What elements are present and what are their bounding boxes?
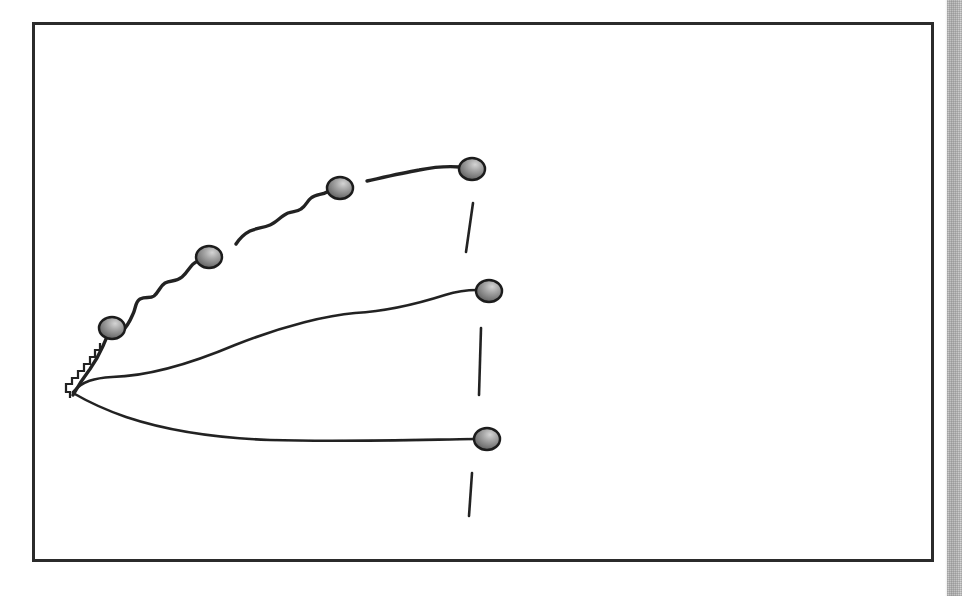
ball-marker — [99, 317, 125, 339]
scan-artifact-strip — [947, 0, 962, 596]
ball-marker — [474, 428, 500, 450]
ball-marker — [327, 177, 353, 199]
ball-marker — [476, 280, 502, 302]
ball-marker — [196, 246, 222, 268]
ball-marker — [459, 158, 485, 180]
figure-page — [0, 0, 968, 596]
scan-artifact-edge — [945, 0, 947, 596]
figure-canvas — [0, 0, 968, 596]
